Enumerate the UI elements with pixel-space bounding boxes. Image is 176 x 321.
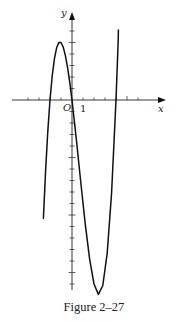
axis-ticks [28, 31, 138, 284]
y-axis-label: y [61, 8, 67, 18]
x-axis-label: x [158, 104, 164, 114]
figure-caption: Figure 2–27 [0, 300, 176, 315]
unit-tick-label: 1 [80, 104, 86, 114]
function-curve [43, 30, 118, 294]
origin-label: O [63, 103, 71, 113]
y-axis-arrow-icon [69, 12, 75, 20]
axes [12, 16, 160, 290]
function-graph [0, 0, 176, 321]
